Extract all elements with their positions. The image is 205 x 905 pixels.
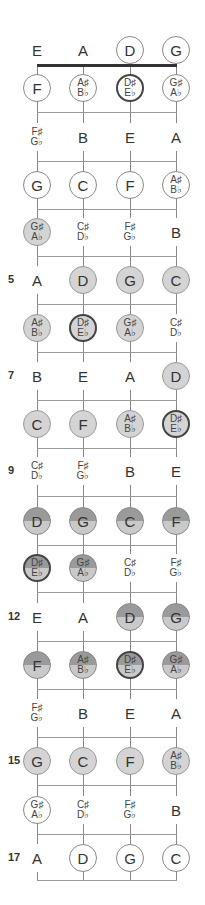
note-marker: G <box>116 844 144 872</box>
note-marker: A <box>23 266 51 294</box>
fret-number: 9 <box>8 464 14 476</box>
note-marker: E <box>116 699 144 727</box>
note-marker: G <box>69 507 97 535</box>
note-label: E♭ <box>31 568 43 578</box>
note-marker: D <box>23 507 51 535</box>
note-marker: A♯B♭ <box>116 410 144 438</box>
note-label: B <box>171 803 181 818</box>
note-marker: G <box>23 171 51 199</box>
note-marker: G♯A♭ <box>69 554 97 582</box>
fret-line <box>37 496 177 497</box>
note-marker: B <box>69 699 97 727</box>
note-label: A <box>32 273 42 288</box>
fret-line <box>37 545 177 546</box>
note-label: A <box>171 130 181 145</box>
note-label: A♭ <box>170 665 182 675</box>
note-label: G♭ <box>77 471 90 481</box>
fret-line <box>37 161 177 162</box>
note-label: D <box>125 610 136 625</box>
note-marker: C♯D♭ <box>23 457 51 485</box>
fret-number: 15 <box>8 754 20 766</box>
note-label: F <box>125 754 134 769</box>
fret-line <box>37 209 177 210</box>
note-marker: D♯E♭ <box>69 314 97 342</box>
note-marker: A♯B♭ <box>69 651 97 679</box>
fretboard-diagram: EADGFA♯B♭D♯E♭G♯A♭F♯G♭BEAGCFA♯B♭G♯A♭C♯D♭F… <box>0 0 205 905</box>
note-marker: C <box>116 507 144 535</box>
fret-line <box>37 304 177 305</box>
note-label: F <box>32 658 41 673</box>
fret-line <box>37 689 177 690</box>
note-label: A <box>78 43 88 58</box>
note-marker: F <box>23 74 51 102</box>
note-label: C <box>171 273 182 288</box>
note-marker: C <box>69 171 97 199</box>
note-marker: A <box>69 36 97 64</box>
note-marker: D <box>116 603 144 631</box>
note-label: G <box>124 273 136 288</box>
fret-number: 5 <box>8 273 14 285</box>
note-marker: G <box>162 603 190 631</box>
note-label: F <box>125 178 134 193</box>
note-marker: F♯G♭ <box>23 123 51 151</box>
note-marker: D <box>116 36 144 64</box>
note-label: D <box>78 851 89 866</box>
note-label: E <box>125 706 135 721</box>
note-marker: A♯B♭ <box>69 74 97 102</box>
note-label: A♭ <box>31 810 43 820</box>
note-marker: C♯D♭ <box>69 218 97 246</box>
note-label: F <box>78 417 87 432</box>
note-marker: E <box>23 603 51 631</box>
note-marker: G♯A♭ <box>116 314 144 342</box>
note-marker: C <box>69 747 97 775</box>
fret-line <box>37 834 177 835</box>
note-marker: F♯G♭ <box>69 457 97 485</box>
note-label: F <box>171 514 180 529</box>
fret-number: 17 <box>8 851 20 863</box>
note-label: A <box>32 851 42 866</box>
note-marker: F <box>69 410 97 438</box>
note-marker: A <box>23 844 51 872</box>
note-marker: G♯A♭ <box>23 796 51 824</box>
note-marker: D♯E♭ <box>116 74 144 102</box>
note-label: D♭ <box>77 810 89 820</box>
note-label: G♭ <box>31 713 44 723</box>
note-label: G <box>31 178 43 193</box>
note-marker: F <box>162 507 190 535</box>
note-label: B♭ <box>124 424 136 434</box>
note-label: E♭ <box>124 665 136 675</box>
note-marker: D <box>162 362 190 390</box>
note-label: D <box>32 514 43 529</box>
note-marker: F <box>23 651 51 679</box>
note-marker: G♯A♭ <box>162 651 190 679</box>
note-marker: A♯B♭ <box>162 747 190 775</box>
note-marker: D♯E♭ <box>162 410 190 438</box>
note-label: B <box>78 130 88 145</box>
note-marker: C♯D♭ <box>69 796 97 824</box>
note-label: C <box>32 417 43 432</box>
note-marker: A <box>162 699 190 727</box>
note-marker: A♯B♭ <box>162 171 190 199</box>
fret-line <box>37 737 177 738</box>
note-marker: A <box>69 603 97 631</box>
note-label: B♭ <box>170 185 182 195</box>
note-label: D♭ <box>170 328 182 338</box>
note-label: E <box>32 610 42 625</box>
note-label: E <box>32 43 42 58</box>
note-marker: A <box>116 362 144 390</box>
note-label: A <box>125 369 135 384</box>
note-label: A <box>171 706 181 721</box>
fret-line <box>37 880 177 881</box>
note-marker: F <box>116 171 144 199</box>
note-label: B <box>32 369 42 384</box>
note-label: B <box>125 464 135 479</box>
fret-line <box>37 641 177 642</box>
note-label: E <box>125 130 135 145</box>
note-label: B♭ <box>170 761 182 771</box>
note-label: B <box>171 225 181 240</box>
note-marker: A♯B♭ <box>23 314 51 342</box>
note-marker: B <box>116 457 144 485</box>
note-marker: F♯G♭ <box>116 796 144 824</box>
note-label: G♭ <box>170 568 183 578</box>
note-label: G <box>77 514 89 529</box>
